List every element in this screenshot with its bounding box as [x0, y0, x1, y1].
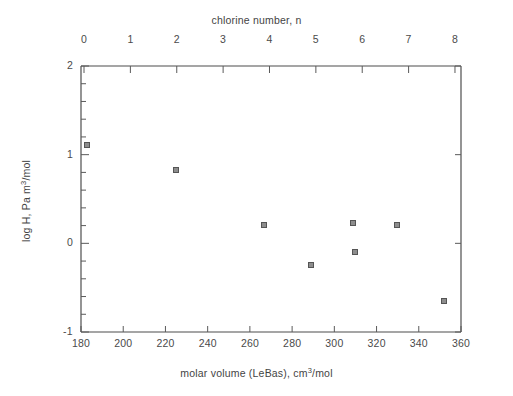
x-axis-tick-label-240: 240	[199, 337, 217, 349]
plot-frame	[81, 66, 461, 332]
data-point	[350, 220, 356, 226]
x-axis-tick-label-220: 220	[156, 337, 174, 349]
top-axis-tick-label-4: 4	[266, 33, 272, 45]
y-axis-tick-label-2: 2	[67, 59, 73, 71]
x-axis-tick-label-180: 180	[72, 337, 90, 349]
y-axis-tick-label--1: -1	[63, 325, 73, 337]
data-point	[394, 222, 400, 228]
top-axis-tick-label-7: 7	[406, 33, 412, 45]
data-point	[441, 298, 447, 304]
x-axis-tick-label-200: 200	[114, 337, 132, 349]
top-axis-tick-label-3: 3	[220, 33, 226, 45]
x-axis-tick-label-340: 340	[410, 337, 428, 349]
y-axis-ticks	[81, 66, 89, 332]
top-axis-tick-label-6: 6	[359, 33, 365, 45]
top-axis-tick-label-2: 2	[174, 33, 180, 45]
data-point	[308, 262, 314, 268]
top-axis-tick-label-8: 8	[452, 33, 458, 45]
right-axis-ticks	[455, 66, 461, 332]
data-point	[261, 222, 267, 228]
y-axis-tick-label-1: 1	[67, 148, 73, 160]
x-axis-tick-label-280: 280	[283, 337, 301, 349]
top-axis-ticks	[84, 66, 455, 73]
top-axis-tick-label-5: 5	[313, 33, 319, 45]
data-point	[84, 142, 90, 148]
x-axis-tick-label-320: 320	[368, 337, 386, 349]
x-axis-tick-label-360: 360	[452, 337, 470, 349]
data-point	[352, 249, 358, 255]
top-axis-tick-label-1: 1	[127, 33, 133, 45]
x-axis-tick-label-300: 300	[325, 337, 343, 349]
x-axis-tick-label-260: 260	[241, 337, 259, 349]
scatter-chart-figure: chlorine number, n molar volume (LeBas),…	[0, 0, 513, 396]
data-point	[173, 167, 179, 173]
x-axis-ticks	[81, 326, 461, 332]
top-axis-tick-label-0: 0	[81, 33, 87, 45]
y-axis-tick-label-0: 0	[67, 236, 73, 248]
